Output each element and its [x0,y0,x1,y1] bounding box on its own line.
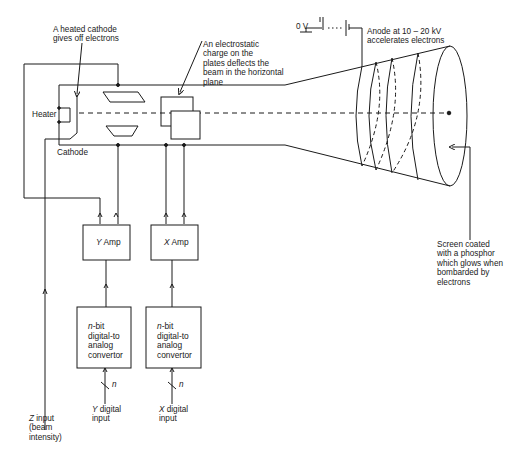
heated-cathode-label: A heated cathode gives off electrons [53,25,119,44]
x-plate-front [171,111,200,139]
y-plate-bottom [106,126,138,136]
screen-ellipse [433,46,467,186]
y-digital-input-label: Y digital input [92,405,121,424]
y-bus-width-label: n [112,380,117,389]
y-amp-label: Y Amp [96,238,121,248]
screen-center-dot [447,111,451,115]
electrostatic-label: An electrostatic charge on the plates de… [203,40,284,87]
screen-label: Screen coated with a phosphor which glow… [437,240,503,287]
heater-label: Heater [32,110,57,119]
anode-label: Anode at 10 – 20 kV accelerates electron… [367,27,444,46]
x-amp-label: X Amp [164,238,189,248]
y-plate-top [103,92,145,102]
y-dac-label: n-bit digital-to analog convertor [88,322,123,360]
z-input-label: Z input (beam intensity) [29,414,62,442]
x-bus-width-label: n [179,380,184,389]
zero-volt-label: 0 V [296,22,308,31]
heater [59,108,70,122]
cathode-label: Cathode [57,148,88,157]
x-dac-label: n-bit digital-to analog convertor [157,322,192,360]
x-digital-input-label: X digital input [159,405,188,424]
